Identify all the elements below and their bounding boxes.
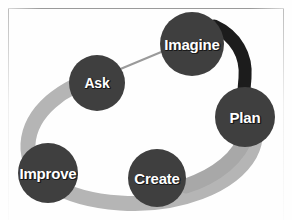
node-label-improve: Improve — [18, 143, 78, 203]
node-ask[interactable]: Ask — [69, 55, 125, 111]
node-label-create: Create — [128, 149, 186, 207]
node-label-imagine: Imagine — [160, 12, 224, 76]
node-improve[interactable]: Improve — [18, 143, 78, 203]
diagram-canvas: Imagine Ask Plan Create Improve — [0, 0, 292, 220]
node-label-ask: Ask — [69, 55, 125, 111]
node-create[interactable]: Create — [128, 149, 186, 207]
node-plan[interactable]: Plan — [215, 87, 275, 147]
connector-ask-to-imagine — [118, 50, 166, 70]
node-imagine[interactable]: Imagine — [160, 12, 224, 76]
node-label-plan: Plan — [215, 87, 275, 147]
